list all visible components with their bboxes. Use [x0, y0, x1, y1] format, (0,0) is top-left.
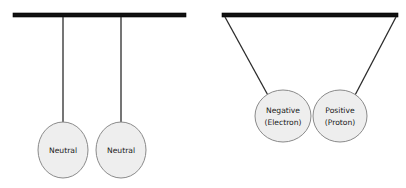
string-proton	[353, 17, 396, 99]
support-bar-left	[13, 13, 186, 17]
charged-pair-panel: Negative (Electron) Positive (Proton)	[222, 13, 398, 142]
label-positive-sub: (Proton)	[325, 118, 355, 127]
label-negative-main: Negative	[266, 106, 300, 115]
string-electron	[225, 17, 270, 99]
diagram-canvas: Neutral Neutral Negative (Electron) Posi…	[0, 0, 406, 188]
ball-proton	[313, 90, 367, 142]
label-right-neutral: Neutral	[107, 146, 135, 155]
label-positive-main: Positive	[325, 106, 355, 115]
support-bar-right	[222, 13, 398, 17]
pendulum-charge-diagram: Neutral Neutral Negative (Electron) Posi…	[0, 0, 406, 188]
neutral-pair-panel: Neutral Neutral	[13, 13, 186, 178]
label-negative-sub: (Electron)	[264, 118, 301, 127]
label-left-neutral: Neutral	[49, 146, 77, 155]
ball-electron	[255, 90, 311, 142]
